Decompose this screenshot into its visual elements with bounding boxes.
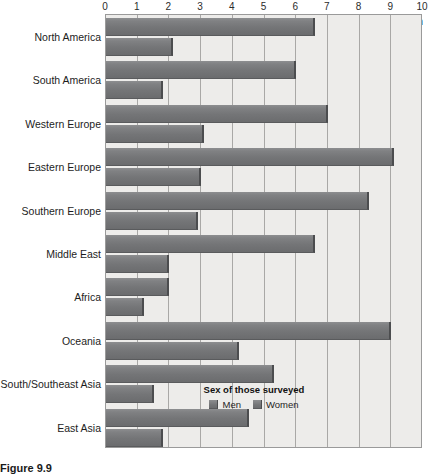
legend-title: Sex of those surveyed	[200, 384, 308, 396]
bar-group	[106, 409, 421, 448]
x-tick-label: 8	[356, 0, 362, 13]
bar-women	[106, 298, 144, 316]
bar-men	[106, 322, 391, 340]
y-tick-label: Eastern Europe	[28, 161, 101, 173]
y-tick-label: North America	[34, 31, 101, 43]
legend-swatch-icon	[253, 400, 262, 409]
legend-item: Women	[253, 399, 299, 410]
bar-men	[106, 235, 315, 253]
bar-men	[106, 278, 169, 296]
legend-label: Men	[222, 399, 240, 410]
bar-women	[106, 385, 154, 403]
bar-women	[106, 81, 163, 99]
y-tick-label: South America	[33, 74, 101, 86]
x-tick-label: 6	[292, 0, 298, 13]
bar-women	[106, 125, 204, 143]
x-tick-label: 1	[134, 0, 140, 13]
bar-men	[106, 18, 315, 36]
bar-women	[106, 38, 173, 56]
bar-group	[106, 61, 421, 104]
y-tick-label: Middle East	[46, 248, 101, 260]
bar-group	[106, 192, 421, 235]
x-tick-label: 5	[261, 0, 267, 13]
legend-label: Women	[266, 399, 299, 410]
figure-caption: Figure 9.9	[0, 462, 52, 475]
legend-items: MenWomen	[200, 399, 308, 410]
bar-men	[106, 105, 328, 123]
x-tick-label: 0	[102, 0, 108, 13]
x-tick-label: 2	[166, 0, 172, 13]
bar-men	[106, 61, 296, 79]
x-tick-label: 4	[229, 0, 235, 13]
y-tick-label: Oceania	[62, 335, 101, 347]
bar-women	[106, 342, 239, 360]
bar-men	[106, 148, 394, 166]
y-tick-label: Western Europe	[25, 118, 101, 130]
bar-group	[106, 278, 421, 321]
x-tick-label: 9	[388, 0, 394, 13]
x-tick-label: 10	[416, 0, 427, 13]
x-tick-label: 3	[197, 0, 203, 13]
x-tick-label: 7	[324, 0, 330, 13]
bar-women	[106, 212, 198, 230]
bar-women	[106, 255, 169, 273]
x-axis-tick-labels: 012345678910	[0, 0, 427, 14]
y-tick-label: South/Southeast Asia	[1, 378, 101, 390]
bar-group	[106, 235, 421, 278]
y-tick-label: Southern Europe	[22, 205, 101, 217]
chart-legend: Sex of those surveyed MenWomen	[196, 381, 312, 414]
legend-swatch-icon	[209, 400, 218, 409]
bar-group	[106, 18, 421, 61]
bar-group	[106, 148, 421, 191]
bar-men	[106, 192, 369, 210]
y-tick-label: Africa	[74, 291, 101, 303]
bar-women	[106, 429, 163, 447]
bar-group	[106, 322, 421, 365]
legend-item: Men	[209, 399, 240, 410]
y-tick-label: East Asia	[57, 422, 101, 434]
bar-women	[106, 168, 201, 186]
y-axis-category-labels: North AmericaSouth AmericaWestern Europe…	[0, 14, 101, 448]
bar-group	[106, 105, 421, 148]
